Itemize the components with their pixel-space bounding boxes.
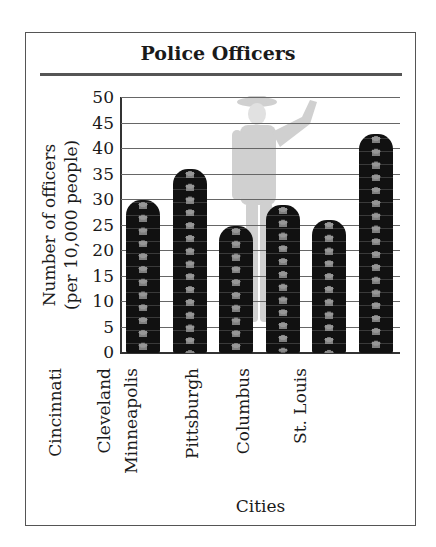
y-tick-label: 5 bbox=[84, 319, 114, 336]
y-tick-label: 35 bbox=[84, 166, 114, 183]
bar-cleveland bbox=[173, 169, 207, 353]
y-tick-label: 10 bbox=[84, 293, 114, 310]
y-tick-label: 40 bbox=[84, 140, 114, 157]
bar-pittsburgh bbox=[266, 205, 300, 353]
y-tick-label: 20 bbox=[84, 242, 114, 259]
bar-minneapolis bbox=[219, 226, 253, 354]
x-tick-label: Cleveland bbox=[96, 368, 113, 454]
x-tick-label: St. Louis bbox=[291, 368, 308, 444]
y-tick-label: 15 bbox=[84, 268, 114, 285]
x-tick-label: Cincinnati bbox=[46, 368, 63, 457]
bar-cincinnati bbox=[126, 200, 160, 353]
y-axis-label-line-1: Number of officers bbox=[38, 140, 60, 310]
x-tick-label: Pittsburgh bbox=[183, 368, 200, 459]
y-tick-label: 45 bbox=[84, 115, 114, 132]
y-axis-label-line-2: (per 10,000 people) bbox=[60, 140, 82, 310]
y-tick-label: 30 bbox=[84, 191, 114, 208]
x-tick-label: Columbus bbox=[234, 368, 251, 454]
x-axis-label: Cities bbox=[121, 496, 400, 516]
y-tick-label: 50 bbox=[84, 89, 114, 106]
y-tick-label: 25 bbox=[84, 217, 114, 234]
title-underline bbox=[40, 73, 402, 76]
y-tick-label: 0 bbox=[84, 344, 114, 361]
plot-area bbox=[121, 97, 400, 353]
bar-columbus bbox=[312, 220, 346, 353]
bar-st-louis bbox=[359, 134, 393, 353]
x-tick-label: Minneapolis bbox=[122, 368, 139, 474]
chart-title: Police Officers bbox=[0, 42, 436, 64]
